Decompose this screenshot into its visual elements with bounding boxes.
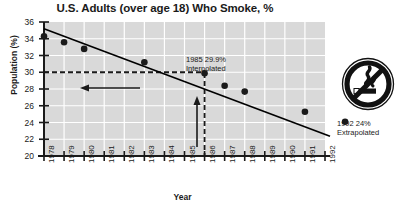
x-tick-label: 1989 bbox=[268, 145, 277, 163]
x-tick-label: 1984 bbox=[167, 145, 176, 163]
y-tick-label: 32 bbox=[12, 51, 34, 61]
annotation-extrapolated-line2: Extrapolated bbox=[337, 128, 379, 137]
x-tick-label: 1985 bbox=[188, 145, 197, 163]
y-tick-label: 36 bbox=[12, 17, 34, 27]
y-tick-label: 28 bbox=[12, 84, 34, 94]
y-tick-label: 20 bbox=[12, 151, 34, 161]
x-tick-label: 1983 bbox=[147, 145, 156, 163]
annotation-interpolated-line1: 1985 29.9% bbox=[186, 55, 226, 64]
data-point-1983 bbox=[141, 59, 148, 66]
x-tick-label: 1981 bbox=[107, 145, 116, 163]
x-tick-label: 1979 bbox=[67, 145, 76, 163]
data-point-1978 bbox=[41, 33, 48, 40]
data-point-1987 bbox=[241, 88, 248, 95]
x-tick-label: 1987 bbox=[228, 145, 237, 163]
y-tick-label: 24 bbox=[12, 118, 34, 128]
data-point-1979 bbox=[61, 39, 68, 46]
no-smoking-icon bbox=[341, 57, 395, 111]
x-tick-label: 1988 bbox=[248, 145, 257, 163]
x-tick-label: 1986 bbox=[208, 145, 217, 163]
x-tick-label: 1990 bbox=[288, 145, 297, 163]
data-point-1986 bbox=[221, 82, 228, 89]
y-tick-label: 30 bbox=[12, 67, 34, 77]
annotation-extrapolated-1992: 1992 24% Extrapolated bbox=[337, 119, 379, 137]
x-tick-label: 1980 bbox=[87, 145, 96, 163]
smoking-rate-chart: U.S. Adults (over age 18) Who Smoke, % P… bbox=[0, 0, 401, 208]
x-tick-label: 1978 bbox=[47, 145, 56, 163]
y-tick-label: 26 bbox=[12, 101, 34, 111]
y-tick-label: 22 bbox=[12, 134, 34, 144]
x-tick-label: 1992 bbox=[328, 145, 337, 163]
data-point-1990 bbox=[302, 108, 309, 115]
annotation-interpolated-line2: Interpolated bbox=[186, 64, 226, 73]
annotation-interpolated-1985: 1985 29.9% Interpolated bbox=[186, 55, 226, 73]
y-tick-label: 34 bbox=[12, 34, 34, 44]
x-tick-label: 1982 bbox=[127, 145, 136, 163]
data-point-1980 bbox=[81, 46, 88, 53]
x-tick-label: 1991 bbox=[308, 145, 317, 163]
annotation-extrapolated-line1: 1992 24% bbox=[337, 119, 379, 128]
